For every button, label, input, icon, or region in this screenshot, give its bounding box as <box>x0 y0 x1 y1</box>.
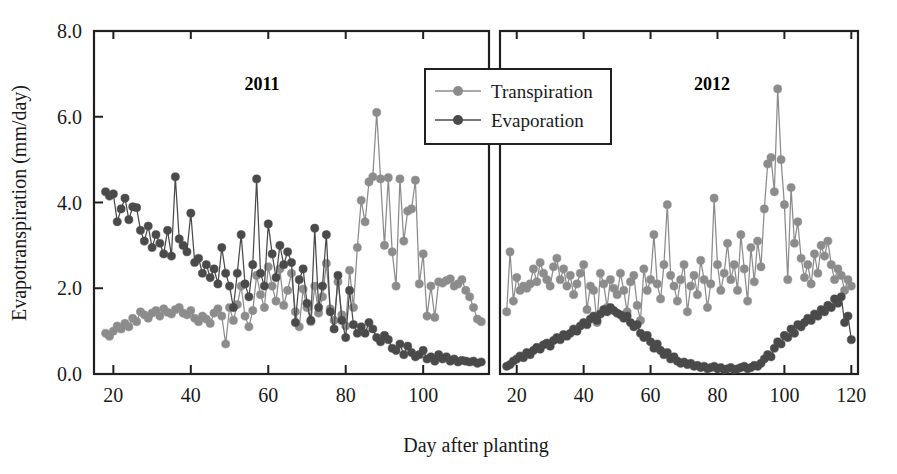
panel-label-2012: 2012 <box>694 74 730 94</box>
data-point-transpiration <box>794 218 802 226</box>
data-point-transpiration <box>553 254 561 262</box>
data-point-transpiration <box>720 269 728 277</box>
x-tick-label: 40 <box>574 384 594 406</box>
data-point-transpiration <box>606 276 614 284</box>
y-tick-label: 4.0 <box>57 192 82 214</box>
x-axis-title: Day after planting <box>403 434 549 457</box>
data-point-transpiration <box>670 282 678 290</box>
data-point-transpiration <box>556 276 564 284</box>
x-tick-label: 120 <box>836 384 866 406</box>
data-point-transpiration <box>757 263 765 271</box>
data-point-transpiration <box>380 241 388 249</box>
data-point-transpiration <box>690 271 698 279</box>
data-point-transpiration <box>272 297 280 305</box>
data-point-evaporation <box>171 173 179 181</box>
data-point-evaporation <box>272 273 280 281</box>
data-point-evaporation <box>241 280 249 288</box>
data-point-evaporation <box>233 269 241 277</box>
data-point-evaporation <box>194 254 202 262</box>
y-tick-label: 6.0 <box>57 106 82 128</box>
data-point-transpiration <box>767 153 775 161</box>
evapotranspiration-figure: 2040608010020406080100120 0.02.04.06.08.… <box>0 0 897 474</box>
chart-legend[interactable]: TranspirationEvaporation <box>425 69 611 144</box>
data-point-evaporation <box>264 220 272 228</box>
data-point-evaporation <box>315 303 323 311</box>
data-point-transpiration <box>673 297 681 305</box>
data-point-transpiration <box>790 239 798 247</box>
data-point-transpiration <box>427 282 435 290</box>
data-point-transpiration <box>376 175 384 183</box>
data-point-transpiration <box>573 280 581 288</box>
data-point-transpiration <box>760 205 768 213</box>
data-point-evaporation <box>349 321 357 329</box>
data-point-transpiration <box>222 340 230 348</box>
data-point-transpiration <box>847 282 855 290</box>
data-point-evaporation <box>295 276 303 284</box>
data-point-evaporation <box>287 258 295 266</box>
data-point-transpiration <box>800 273 808 281</box>
data-point-evaporation <box>837 293 845 301</box>
data-point-evaporation <box>400 351 408 359</box>
data-point-transpiration <box>284 286 292 294</box>
data-point-transpiration <box>357 196 365 204</box>
x-tick-label: 60 <box>258 384 278 406</box>
data-point-evaporation <box>163 226 171 234</box>
data-point-transpiration <box>241 312 249 320</box>
data-point-transpiration <box>388 248 396 256</box>
data-point-evaporation <box>253 175 261 183</box>
data-point-transpiration <box>559 265 567 273</box>
data-point-evaporation <box>311 224 319 232</box>
data-point-evaporation <box>322 231 330 239</box>
data-point-evaporation <box>307 316 315 324</box>
data-point-evaporation <box>767 353 775 361</box>
data-point-transpiration <box>513 273 521 281</box>
data-point-transpiration <box>583 306 591 314</box>
y-axis-title: Evapotranspiration (mm/day) <box>8 85 31 321</box>
x-tick-label: 80 <box>707 384 727 406</box>
data-point-evaporation <box>419 346 427 354</box>
data-point-transpiration <box>630 271 638 279</box>
data-point-transpiration <box>693 291 701 299</box>
data-point-transpiration <box>214 305 222 313</box>
data-point-transpiration <box>633 301 641 309</box>
data-point-transpiration <box>446 275 454 283</box>
y-tick-label: 2.0 <box>57 277 82 299</box>
data-point-transpiration <box>546 282 554 290</box>
data-point-transpiration <box>345 266 353 274</box>
data-point-transpiration <box>206 319 214 327</box>
data-point-transpiration <box>680 261 688 269</box>
data-point-evaporation <box>237 231 245 239</box>
data-point-transpiration <box>249 306 257 314</box>
data-point-evaporation <box>187 209 195 217</box>
panel-label-2011: 2011 <box>244 74 279 94</box>
data-point-evaporation <box>202 261 210 269</box>
data-point-transpiration <box>396 175 404 183</box>
legend-label-evaporation: Evaporation <box>491 110 584 131</box>
data-point-evaporation <box>206 273 214 281</box>
data-point-transpiration <box>707 280 715 288</box>
data-point-transpiration <box>814 269 822 277</box>
data-point-transpiration <box>392 282 400 290</box>
data-point-transpiration <box>743 297 751 305</box>
data-point-transpiration <box>415 280 423 288</box>
data-point-transpiration <box>133 318 141 326</box>
data-point-evaporation <box>121 194 129 202</box>
data-point-evaporation <box>334 271 342 279</box>
data-point-evaporation <box>144 222 152 230</box>
data-point-transpiration <box>563 282 571 290</box>
data-point-transpiration <box>677 276 685 284</box>
data-point-evaporation <box>117 205 125 213</box>
data-point-transpiration <box>260 303 268 311</box>
data-point-evaporation <box>214 280 222 288</box>
data-point-evaporation <box>113 218 121 226</box>
data-point-transpiration <box>804 261 812 269</box>
data-point-transpiration <box>730 261 738 269</box>
data-point-transpiration <box>431 313 439 321</box>
data-point-transpiration <box>229 316 237 324</box>
data-point-evaporation <box>790 329 798 337</box>
data-point-transpiration <box>710 194 718 202</box>
data-point-transpiration <box>400 237 408 245</box>
data-point-transpiration <box>667 271 675 279</box>
data-point-evaporation <box>210 265 218 273</box>
data-point-transpiration <box>750 278 758 286</box>
